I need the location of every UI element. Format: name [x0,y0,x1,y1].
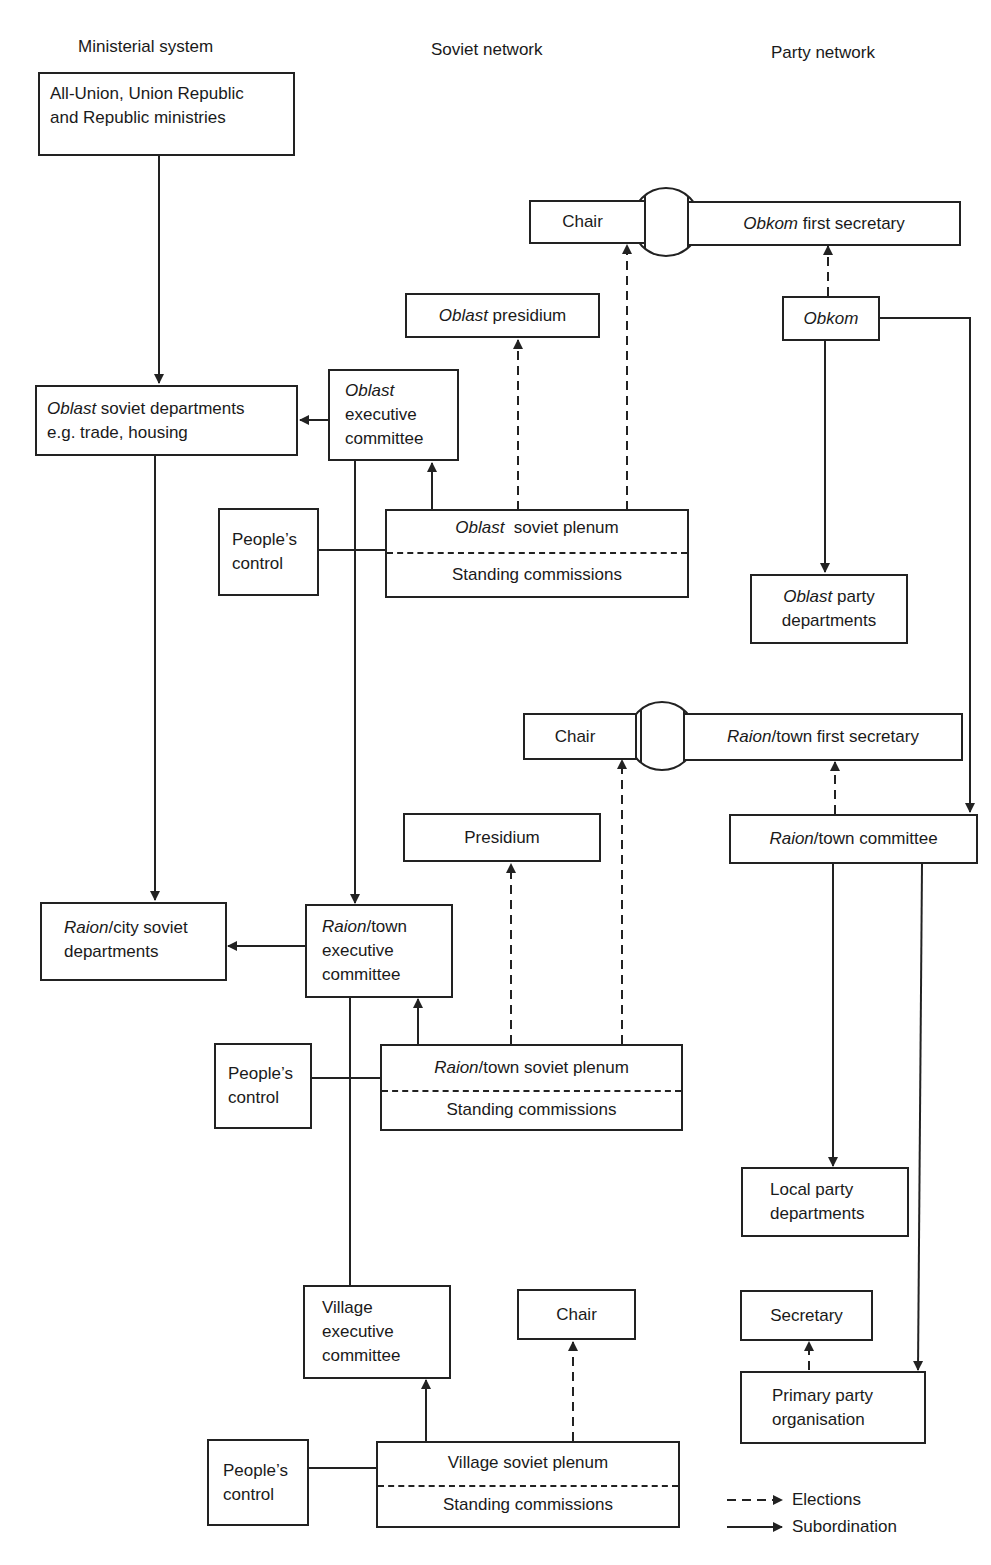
secretary-box: Secretary [740,1290,873,1341]
column-header-ministerial: Ministerial system [78,37,213,57]
obkom-first-secretary-box: Obkom first secretary [687,201,961,246]
ministries-line1: All-Union, Union Republic [50,82,244,106]
oblast-chair-box: Chair [529,200,646,244]
standing-commissions-label: Standing commissions [387,565,687,585]
raion-town-soviet-plenum-box: Raion/town soviet plenum Standing commis… [380,1044,683,1131]
plenum-divider [382,1090,681,1092]
raion-peoples-control-box: People’s control [214,1043,312,1129]
raion-town-executive-committee-box: Raion/town executive committee [305,904,453,998]
village-executive-committee-box: Village executive committee [303,1285,451,1379]
local-party-departments-box: Local party departments [741,1167,909,1237]
oblast-soviet-departments-box: Oblast soviet departments e.g. trade, ho… [35,385,298,456]
village-peoples-control-box: People’s control [207,1439,309,1526]
raion-chair-box: Chair [523,713,637,760]
raion-town-first-secretary-box: Raion/town first secretary [683,713,963,761]
legend-subordination: Subordination [792,1517,897,1537]
legend-elections: Elections [792,1490,861,1510]
standing-commissions-label: Standing commissions [378,1495,678,1515]
standing-commissions-label: Standing commissions [382,1100,681,1120]
ministries-box: All-Union, Union Republic and Republic m… [38,72,295,156]
oblast-presidium-box: Oblast presidium [405,293,600,338]
village-chair-box: Chair [517,1289,636,1340]
oblast-soviet-plenum-box: Oblast soviet plenum Standing commission… [385,509,689,598]
ministries-line2: and Republic ministries [50,106,226,130]
obkom-box: Obkom [782,296,880,341]
raion-presidium-box: Presidium [403,813,601,862]
oblast-executive-committee-box: Oblast executive committee [328,369,459,461]
plenum-divider [387,552,687,554]
village-soviet-plenum-box: Village soviet plenum Standing commissio… [376,1441,680,1528]
column-header-party: Party network [771,43,875,63]
primary-party-organisation-box: Primary party organisation [740,1371,926,1444]
raion-town-committee-box: Raion/town committee [729,814,978,864]
raion-city-soviet-departments-box: Raion/city soviet departments [40,902,227,981]
column-header-soviet: Soviet network [431,40,543,60]
oblast-peoples-control-box: People’s control [218,508,319,596]
plenum-divider [378,1485,678,1487]
oblast-party-departments-box: Oblast party departments [750,574,908,644]
